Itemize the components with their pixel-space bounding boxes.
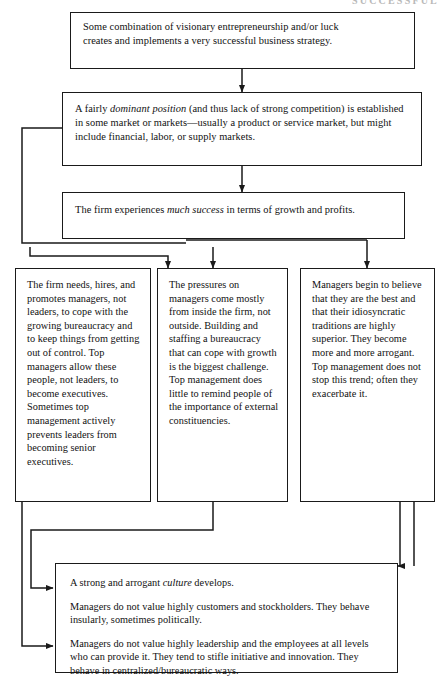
node-arrogance: Managers begin to believe that they are … xyxy=(300,268,435,502)
paragraph-gap-1 xyxy=(70,590,385,600)
edge-box3-colleft xyxy=(30,247,168,268)
box1-line2: creates and implements a very successful… xyxy=(83,34,403,48)
node-managers-not-leaders: The firm needs, hires, and promotes mana… xyxy=(15,268,151,502)
node-dominant-position: A fairly dominant position (and thus lac… xyxy=(62,92,422,166)
box2-emphasis: dominant position xyxy=(110,103,186,114)
box3-emphasis: much success xyxy=(167,204,224,215)
col-mid-text: The pressures on managers come mostly fr… xyxy=(169,278,279,428)
box1-line1: Some combination of visionary entreprene… xyxy=(83,20,403,34)
flowchart-canvas: SUCCESSFUL xyxy=(0,0,443,685)
bottom-p1-emphasis: culture xyxy=(163,577,192,588)
bottom-p1-seg2: develops. xyxy=(192,577,234,588)
node-much-success: The firm experiences much success in ter… xyxy=(62,192,405,239)
node-arrogant-culture: A strong and arrogant culture develops. … xyxy=(55,563,398,673)
node-successful-strategy: Some combination of visionary entreprene… xyxy=(70,12,415,69)
paragraph-gap-2 xyxy=(70,627,385,637)
box3-text: The firm experiences much success in ter… xyxy=(75,203,393,217)
node-internal-pressures: The pressures on managers come mostly fr… xyxy=(157,268,288,502)
edge-colright-bottom xyxy=(398,502,400,566)
bottom-para-2: Managers do not value highly customers a… xyxy=(70,600,385,627)
bottom-para-3: Managers do not value highly leadership … xyxy=(70,637,385,678)
box3-seg2: in terms of growth and profits. xyxy=(224,204,355,215)
col-right-text: Managers begin to believe that they are … xyxy=(312,278,426,400)
box2-text: A fairly dominant position (and thus lac… xyxy=(75,102,410,145)
bottom-p1-seg1: A strong and arrogant xyxy=(70,577,163,588)
edge-colleft-bottom xyxy=(22,502,53,646)
box3-seg1: The firm experiences xyxy=(75,204,167,215)
box2-seg1: A fairly xyxy=(75,103,110,114)
bottom-para-1: A strong and arrogant culture develops. xyxy=(70,576,385,590)
col-left-text: The firm needs, hires, and promotes mana… xyxy=(27,278,141,468)
